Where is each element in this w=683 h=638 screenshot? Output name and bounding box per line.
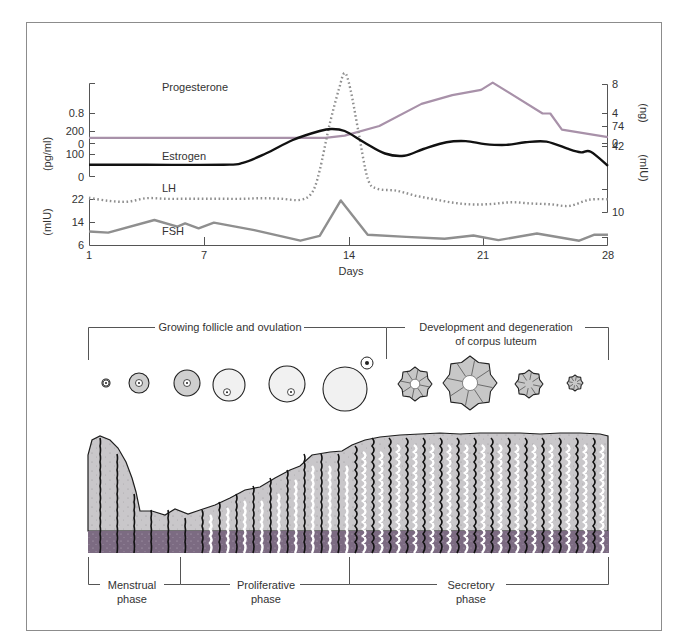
- gland: [117, 454, 118, 553]
- unit-pgml: (pg/ml): [41, 137, 53, 171]
- gland-lumen: [329, 466, 331, 553]
- x-tick-1: 1: [86, 249, 92, 261]
- gland-lumen: [227, 508, 229, 553]
- corpus-center: [462, 375, 477, 390]
- proliferative-phase-label-2: phase: [251, 593, 281, 605]
- corpus-center: [410, 379, 420, 389]
- follicle-ovulation: [323, 357, 373, 411]
- secretory-phase-label-1: Secretory: [447, 579, 495, 591]
- x-tick-28: 28: [602, 249, 614, 261]
- follicle-antral: [269, 366, 305, 402]
- unit-ng: (ng): [638, 103, 650, 123]
- x-tick-7: 7: [201, 249, 207, 261]
- x-axis-label: Days: [338, 265, 364, 277]
- prog-left-tick-0.8: 0.8: [69, 107, 84, 119]
- lh-right-tick-10: 10: [612, 206, 624, 218]
- gland-lumen: [295, 480, 297, 553]
- follicle-primordial: [102, 379, 110, 387]
- menstrual-phase-label-2: phase: [117, 593, 147, 605]
- estr-left-tick-100: 100: [66, 148, 84, 160]
- hormone-chart: 0.8 0 8 4 0 (ng) 200 100 0 74 42 10 (pg/…: [41, 73, 650, 277]
- x-tick-14: 14: [343, 249, 355, 261]
- gland-lumen: [278, 494, 280, 553]
- menstrual-cycle-figure: 0.8 0 8 4 0 (ng) 200 100 0 74 42 10 (pg/…: [0, 0, 683, 638]
- proliferative-phase-label-1: Proliferative: [237, 579, 295, 591]
- gland-lumen: [261, 501, 263, 553]
- corpus-luteum-drawings: [398, 356, 583, 410]
- progesterone-label: Progesterone: [162, 81, 228, 93]
- basal-layer: [88, 531, 609, 553]
- ovarian-cycle: Growing follicle and ovulation Developme…: [89, 321, 609, 411]
- corpus-section-label-2: of corpus luteum: [455, 335, 536, 347]
- gland: [236, 494, 237, 553]
- prog-right-tick-4: 4: [612, 107, 618, 119]
- fsh-left-tick-22: 22: [72, 193, 84, 205]
- follicle-primary: [129, 373, 149, 393]
- estrogen-label: Estrogen: [162, 150, 206, 162]
- corpus-regressing-corpus-luteum: [515, 370, 543, 398]
- lh-right-tick-74: 74: [612, 120, 624, 132]
- gland: [219, 502, 220, 553]
- gland: [151, 510, 152, 553]
- follicle-secondary: [174, 370, 200, 396]
- fsh-left-tick-6: 6: [78, 239, 84, 251]
- gland: [168, 510, 169, 553]
- corpus-developing-corpus-luteum: [398, 367, 432, 401]
- gland: [100, 438, 101, 553]
- fsh-label: FSH: [162, 225, 184, 237]
- x-tick-21: 21: [477, 249, 489, 261]
- gland-lumen: [346, 466, 348, 553]
- corpus-mature-corpus-luteum: [443, 356, 497, 410]
- estr-left-tick-200: 200: [66, 125, 84, 137]
- menstrual-phase-label-1: Menstrual: [108, 579, 156, 591]
- corpus-section-label-1: Development and degeneration: [419, 321, 573, 333]
- lh-right-tick-42: 42: [612, 140, 624, 152]
- gland-lumen: [312, 466, 314, 553]
- corpus-corpus-albicans: [567, 375, 583, 391]
- phase-bracket: [89, 557, 609, 585]
- gland: [253, 486, 254, 553]
- endometrium-illustration: Menstrual phase Proliferative phase Secr…: [88, 433, 609, 605]
- fsh-left-tick-14: 14: [72, 216, 84, 228]
- unit-miu-right: (mIU): [638, 154, 650, 182]
- prog-right-tick-8: 8: [612, 78, 618, 90]
- unit-miu-left: (mIU): [41, 208, 53, 236]
- gland-lumen: [244, 501, 246, 553]
- secretory-phase-label-2: phase: [456, 593, 486, 605]
- follicle-early-antral: [213, 369, 245, 401]
- estrogen-lh-axes: [90, 127, 608, 213]
- gland: [185, 518, 186, 553]
- follicle-section-label: Growing follicle and ovulation: [158, 321, 301, 333]
- gland: [134, 494, 135, 553]
- follicle-drawings: [102, 357, 373, 411]
- lh-label: LH: [162, 182, 176, 194]
- estr-left-tick-0: 0: [78, 171, 84, 183]
